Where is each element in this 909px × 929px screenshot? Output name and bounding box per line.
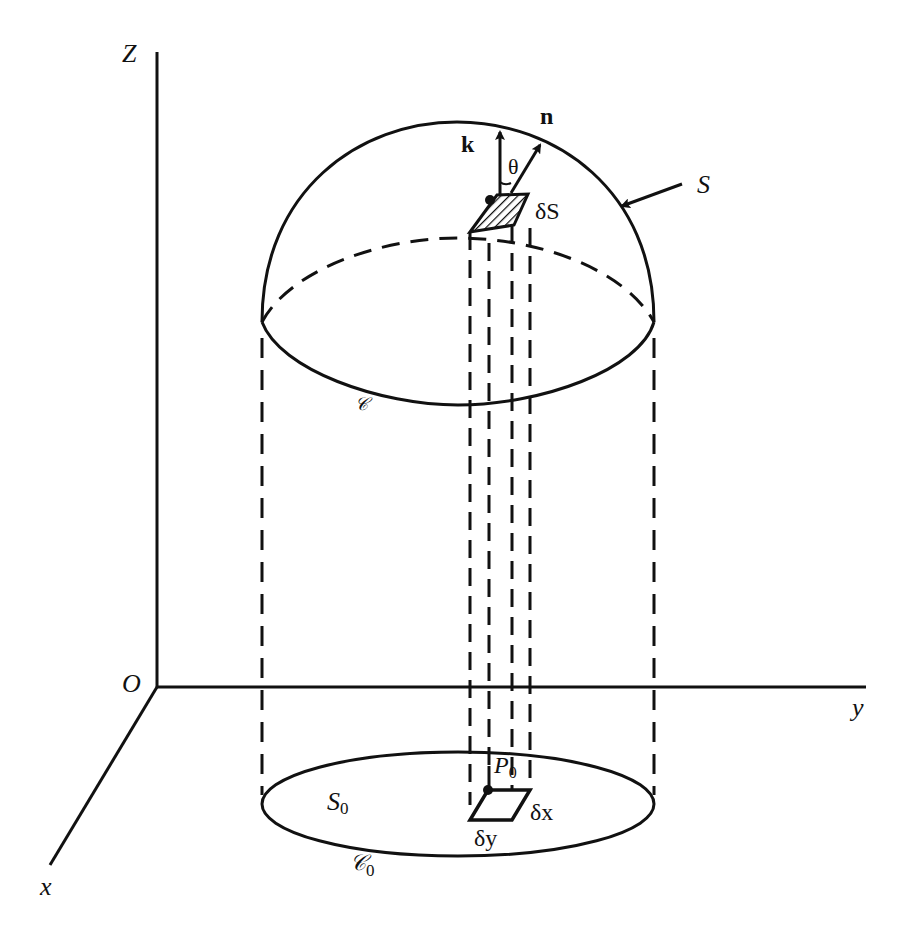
- theta-arc: [500, 182, 511, 184]
- origin-label: O: [122, 669, 141, 698]
- surface-s-label: S: [697, 170, 710, 199]
- point-on-surface: [485, 195, 495, 205]
- s0-label: S0: [327, 787, 349, 818]
- theta-label: θ: [508, 154, 519, 179]
- base-region-s0: [262, 752, 654, 856]
- n-label: n: [540, 103, 553, 129]
- hemisphere-surface: [262, 122, 654, 405]
- x-axis-label: x: [39, 872, 52, 901]
- c0-label: 𝒞0: [350, 850, 375, 880]
- point-p0: [483, 785, 493, 795]
- y-axis-label: y: [849, 693, 864, 722]
- curve-c-label: 𝒞: [355, 394, 373, 414]
- dome-outline: [262, 122, 654, 322]
- delta-y-label: δy: [474, 825, 497, 851]
- outer-projection-lines: [262, 338, 654, 795]
- surface-element-ds: [470, 194, 528, 232]
- s-pointer-arrow: [622, 184, 682, 206]
- rim-front-curve-c: [262, 322, 654, 405]
- k-label: k: [461, 131, 475, 157]
- z-axis-label: Z: [122, 39, 137, 68]
- vectors: [500, 132, 540, 196]
- rim-back-dashed: [262, 238, 654, 322]
- delta-x-label: δx: [530, 799, 553, 825]
- x-axis: [50, 687, 157, 865]
- inner-projection-lines: [470, 225, 530, 805]
- axes: [50, 52, 866, 865]
- surface-projection-diagram: Z y x O S k n θ δS 𝒞 S0 𝒞0 P0 δx δy: [0, 0, 909, 929]
- delta-s-label: δS: [535, 198, 560, 224]
- p0-label: P0: [493, 752, 517, 781]
